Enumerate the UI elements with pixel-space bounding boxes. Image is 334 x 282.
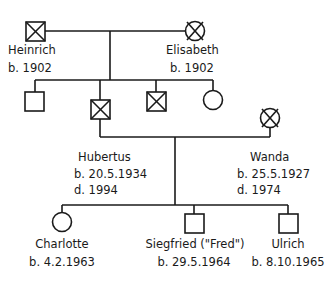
heinrich-crossed-square-icon xyxy=(26,22,45,41)
ulrich-square-icon xyxy=(279,214,298,233)
sibling-deceased-crossed-square-icon xyxy=(147,92,166,111)
hubertus-name: Hubertus xyxy=(78,149,131,165)
wanda-crossed-circle-icon xyxy=(261,109,280,128)
charlotte-born: b. 4.2.1963 xyxy=(17,254,107,270)
heinrich-born: b. 1902 xyxy=(8,60,52,76)
elisabeth-name: Elisabeth xyxy=(166,42,219,58)
hubertus-crossed-square-icon xyxy=(91,100,110,119)
ulrich-born: b. 8.10.1965 xyxy=(246,254,330,270)
hubertus-died: d. 1994 xyxy=(74,182,118,198)
siegfried-name: Siegfried ("Fred") xyxy=(139,236,251,252)
sibling-male-square-icon xyxy=(25,92,44,111)
siegfried-born: b. 29.5.1964 xyxy=(144,254,244,270)
charlotte-circle-icon xyxy=(53,213,72,232)
elisabeth-born: b. 1902 xyxy=(170,60,214,76)
elisabeth-crossed-circle-icon xyxy=(186,22,205,41)
heinrich-name: Heinrich xyxy=(8,42,56,58)
wanda-name: Wanda xyxy=(250,149,289,165)
hubertus-born: b. 20.5.1934 xyxy=(74,166,147,182)
siegfried-square-icon xyxy=(185,214,204,233)
wanda-born: b. 25.5.1927 xyxy=(237,166,310,182)
charlotte-name: Charlotte xyxy=(22,236,102,252)
ulrich-name: Ulrich xyxy=(258,236,318,252)
sibling-female-circle-icon xyxy=(204,91,223,110)
wanda-died: d. 1974 xyxy=(237,182,281,198)
